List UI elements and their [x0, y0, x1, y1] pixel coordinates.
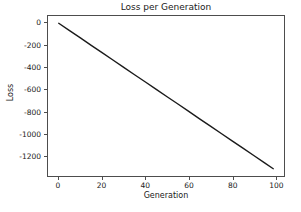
y-tick-label: -1000	[0, 129, 41, 138]
chart-title: Loss per Generation	[47, 1, 285, 13]
x-tick-mark	[102, 177, 103, 180]
chart-figure: Loss per Generation Loss 0-200-400-600-8…	[0, 0, 301, 212]
x-axis-label: Generation	[47, 191, 285, 200]
x-tick-mark	[189, 177, 190, 180]
y-tick-label: -800	[0, 107, 41, 116]
x-tick-mark	[233, 177, 234, 180]
x-tick-label: 0	[55, 181, 60, 190]
x-tick-label: 40	[140, 181, 150, 190]
x-tick-mark	[276, 177, 277, 180]
y-tick-label: -600	[0, 85, 41, 94]
x-tick-mark	[145, 177, 146, 180]
x-tick-label: 80	[228, 181, 238, 190]
loss-line-path	[59, 23, 274, 168]
x-tick-label: 60	[184, 181, 194, 190]
x-tick-label: 100	[269, 181, 283, 190]
line-series-canvas	[48, 16, 284, 176]
plot-area	[47, 15, 285, 177]
y-tick-label: -200	[0, 40, 41, 49]
y-tick-label: -400	[0, 62, 41, 71]
x-tick-label: 20	[97, 181, 107, 190]
y-tick-label: -1200	[0, 152, 41, 161]
x-tick-mark	[58, 177, 59, 180]
y-tick-label: 0	[0, 18, 41, 27]
